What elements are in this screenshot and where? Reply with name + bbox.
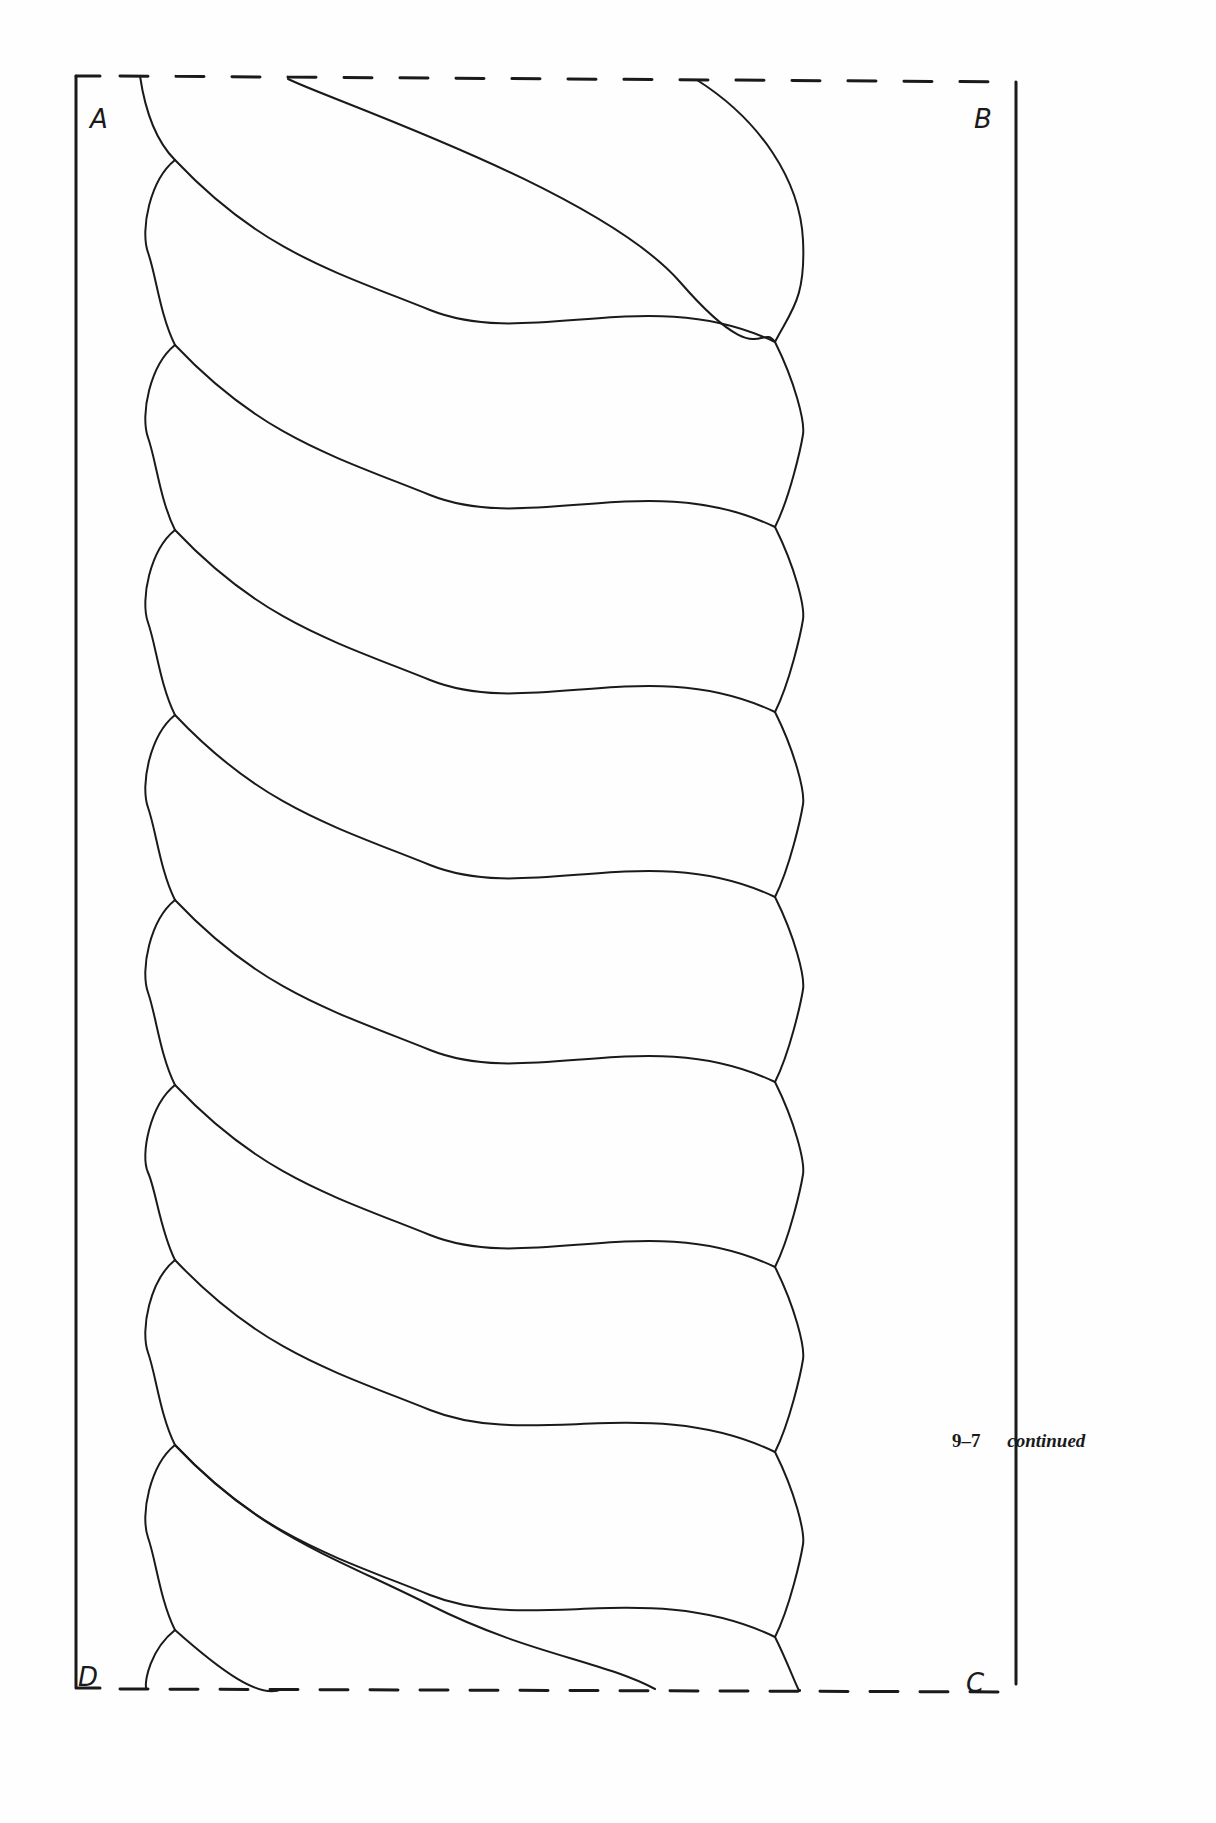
rope-bottom-diagonal xyxy=(175,1445,655,1689)
rope-right-bulge xyxy=(775,1267,803,1452)
corner-label-a: A xyxy=(90,104,108,134)
corner-label-c: C xyxy=(966,1668,984,1698)
figure-caption-word: continued xyxy=(1007,1430,1085,1451)
rope-top-left-arc xyxy=(140,76,175,160)
rope-left-bulge xyxy=(145,1445,175,1630)
rope-left-bulge xyxy=(145,345,175,530)
rope-diagonal-strand xyxy=(175,345,775,527)
rope-left-bulge xyxy=(145,1085,175,1260)
corner-label-b: B xyxy=(974,104,992,134)
figure-caption: 9–7 continued xyxy=(952,1430,1085,1452)
frame-top-dashed xyxy=(120,76,1016,82)
rope-right-bulge xyxy=(775,897,803,1082)
rope-left-bulge xyxy=(145,530,175,715)
rope-diagonal-strand xyxy=(175,715,775,897)
rope-right-bulge xyxy=(775,342,803,527)
rope-left-bulge xyxy=(145,1260,175,1445)
rope-bottom-right-arc xyxy=(775,1637,800,1691)
frame-left-edge xyxy=(76,76,100,1688)
rope-top-diagonal xyxy=(288,79,775,342)
rope-border-drawing xyxy=(0,0,1216,1823)
rope-bottom-left-diagonal xyxy=(175,1630,282,1691)
template-page: A B C D 9–7 continued xyxy=(0,0,1216,1823)
corner-label-d: D xyxy=(78,1662,98,1692)
rope-bottom-left-arc xyxy=(146,1630,175,1689)
rope-right-bulge xyxy=(775,527,803,712)
frame-bottom-dashed xyxy=(120,1689,1016,1692)
rope-right-bulge xyxy=(775,1452,803,1637)
rope-diagonal-strand xyxy=(175,900,775,1082)
rope-right-bulge xyxy=(775,712,803,897)
figure-number: 9–7 xyxy=(952,1430,981,1451)
rope-left-bulge xyxy=(145,900,175,1085)
rope-left-bulge xyxy=(145,715,175,900)
rope-diagonal-strand xyxy=(175,1085,775,1267)
rope-diagonal-strand xyxy=(175,1445,775,1637)
rope-diagonal-strand xyxy=(175,530,775,712)
rope-strands xyxy=(140,76,803,1691)
rope-right-bulge xyxy=(775,1082,803,1267)
rope-diagonal-strand xyxy=(175,1260,775,1452)
rope-diagonal-strand xyxy=(175,160,775,342)
rope-top-right-arc xyxy=(697,80,803,342)
rope-left-bulge xyxy=(145,160,175,345)
